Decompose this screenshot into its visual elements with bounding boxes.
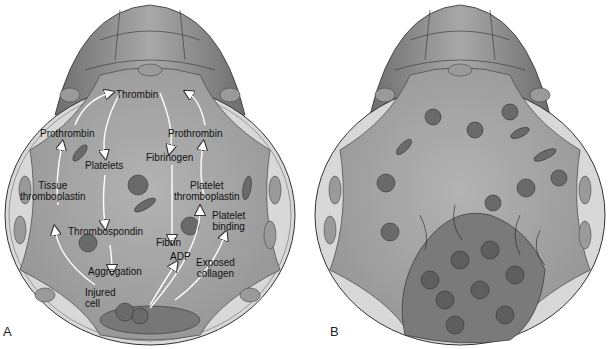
- label-injured-cell: Injured cell: [85, 287, 116, 309]
- label-line: Tissue: [38, 180, 67, 191]
- label-prothrombin-left: Prothrombin: [40, 128, 94, 139]
- label-fibrin: Fibrin: [156, 237, 181, 248]
- label-platelet-binding: Platelet binding: [212, 210, 245, 232]
- label-platelets: Platelets: [85, 160, 123, 171]
- panel-label-b: B: [330, 324, 339, 339]
- label-platelet-thromboplastin: Platelet thromboplastin: [174, 180, 240, 202]
- label-line: Platelet: [212, 210, 245, 221]
- panel-label-a: A: [3, 324, 12, 339]
- label-line: Exposed: [196, 257, 235, 268]
- label-tissue-thromboplastin: Tissue thromboplastin: [20, 180, 86, 202]
- label-aggregation: Aggregation: [88, 266, 142, 277]
- label-line: binding: [213, 221, 245, 232]
- label-prothrombin-right: Prothrombin: [168, 128, 222, 139]
- label-line: cell: [85, 298, 100, 309]
- vessel-b: [315, 5, 605, 345]
- label-fibrinogen: Fibrinogen: [146, 152, 193, 163]
- label-line: collagen: [197, 268, 234, 279]
- label-line: Platelet: [190, 180, 223, 191]
- label-line: Injured: [85, 287, 116, 298]
- vessel-a: [5, 5, 295, 345]
- label-thrombin: Thrombin: [116, 89, 158, 100]
- label-exposed-collagen: Exposed collagen: [196, 257, 235, 279]
- label-line: thromboplastin: [20, 191, 86, 202]
- label-adp: ADP: [170, 251, 191, 262]
- label-thrombospondin: Thrombospondin: [68, 226, 143, 237]
- label-line: thromboplastin: [174, 191, 240, 202]
